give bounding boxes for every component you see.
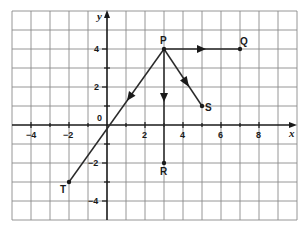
y-tick-label: −4 xyxy=(88,196,98,206)
x-tick-label: 8 xyxy=(256,130,261,140)
point-q xyxy=(238,47,242,51)
y-tick-label: −2 xyxy=(88,158,98,168)
coordinate-diagram: −4 −2 2 4 6 8 4 2 −2 −4 0 x y P Q R S T xyxy=(0,0,300,226)
arrow-pr-icon xyxy=(160,93,168,102)
label-t: T xyxy=(60,184,66,195)
arrow-ps-icon xyxy=(180,76,189,87)
x-tick-label: −4 xyxy=(26,130,36,140)
x-tick-label: −2 xyxy=(63,130,73,140)
grid-lines xyxy=(12,11,297,220)
x-tick-label: 2 xyxy=(142,130,147,140)
x-tick-label: 6 xyxy=(218,130,223,140)
label-p: P xyxy=(160,35,167,46)
y-tick-label: 4 xyxy=(94,44,99,54)
x-axis-label: x xyxy=(288,127,295,139)
point-s xyxy=(200,104,204,108)
label-s: S xyxy=(205,102,212,113)
point-r xyxy=(162,161,166,165)
label-r: R xyxy=(160,166,168,177)
origin-label: 0 xyxy=(97,113,102,123)
x-tick-label: 4 xyxy=(180,130,185,140)
label-q: Q xyxy=(240,36,248,47)
arrow-pq-icon xyxy=(197,45,206,53)
y-axis-label: y xyxy=(95,10,102,22)
y-tick-label: 2 xyxy=(94,82,99,92)
vector-pt xyxy=(69,49,164,182)
point-t xyxy=(67,180,71,184)
arrow-pt-icon xyxy=(127,91,136,101)
point-p xyxy=(162,47,166,51)
